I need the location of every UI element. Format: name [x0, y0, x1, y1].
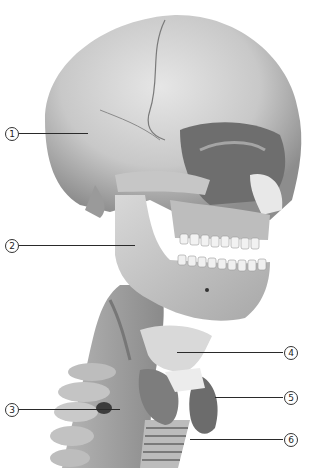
callout-line-6	[190, 439, 283, 440]
callout-number-1: 1	[5, 127, 19, 141]
cranium	[45, 15, 301, 220]
callout-number-5: 5	[284, 391, 298, 405]
callout-number-4: 4	[284, 346, 298, 360]
callout-line-2	[19, 245, 135, 246]
callout-number-2: 2	[5, 239, 19, 253]
callout-number-6: 6	[284, 433, 298, 447]
callout-line-1	[19, 133, 88, 134]
trachea	[140, 420, 190, 468]
callout-number-3: 3	[5, 403, 19, 417]
callout-line-5	[215, 397, 283, 398]
callout-line-4	[177, 352, 283, 353]
callout-line-3	[19, 409, 120, 410]
